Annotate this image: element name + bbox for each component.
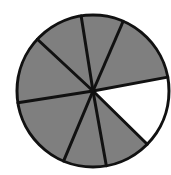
fraction-circle-diagram (0, 0, 171, 175)
